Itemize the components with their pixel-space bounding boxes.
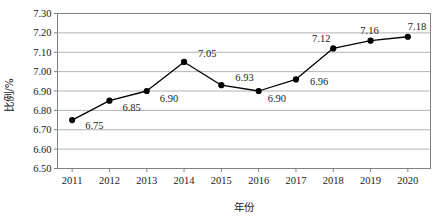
x-axis-tick-label: 2014 [174, 175, 196, 186]
data-point-label: 6.96 [310, 76, 328, 87]
data-point-label: 6.85 [122, 102, 140, 113]
data-point-label: 6.93 [235, 72, 253, 83]
data-point-marker [367, 38, 373, 44]
x-axis-tick-label: 2012 [99, 175, 120, 186]
data-point-label: 6.75 [85, 120, 103, 131]
data-point-label: 6.90 [268, 93, 286, 104]
x-axis-tick-label: 2019 [360, 175, 381, 186]
data-point-label: 6.90 [160, 93, 178, 104]
y-axis-tick-label: 6.80 [33, 105, 51, 116]
x-axis-tick-label: 2018 [323, 175, 344, 186]
data-point-label: 7.16 [360, 25, 378, 36]
data-point-marker [330, 45, 336, 51]
data-point-marker [293, 76, 299, 82]
y-axis-tick-label: 6.70 [33, 124, 51, 135]
data-point-marker [144, 88, 150, 94]
y-axis-tick-label: 7.00 [33, 66, 51, 77]
x-axis-tick-label: 2011 [62, 175, 83, 186]
data-point-marker [218, 82, 224, 88]
y-axis-title: 比例/% [3, 78, 15, 112]
data-point-marker [106, 98, 112, 104]
data-point-label: 7.05 [198, 48, 216, 59]
chart-canvas: 7.307.207.107.006.906.806.706.606.502011… [0, 0, 437, 218]
line-chart: 7.307.207.107.006.906.806.706.606.502011… [0, 0, 437, 218]
data-point-marker [181, 59, 187, 65]
y-axis-tick-label: 6.90 [33, 86, 51, 97]
y-axis-tick-label: 6.50 [33, 163, 51, 174]
x-axis-title: 年份 [234, 201, 255, 213]
x-axis-tick-label: 2013 [136, 175, 157, 186]
x-axis-tick-label: 2020 [397, 175, 418, 186]
y-axis-tick-label: 7.20 [33, 27, 51, 38]
data-point-marker [69, 117, 75, 123]
data-point-marker [256, 88, 262, 94]
y-axis-tick-label: 7.30 [33, 8, 51, 19]
data-point-label: 7.12 [312, 33, 330, 44]
x-axis-tick-label: 2017 [285, 175, 306, 186]
y-axis-tick-label: 7.10 [33, 47, 51, 58]
x-axis-tick-label: 2016 [248, 175, 269, 186]
data-point-marker [405, 34, 411, 40]
data-point-label: 7.18 [408, 21, 426, 32]
x-axis-tick-label: 2015 [211, 175, 232, 186]
y-axis-tick-label: 6.60 [33, 144, 51, 155]
